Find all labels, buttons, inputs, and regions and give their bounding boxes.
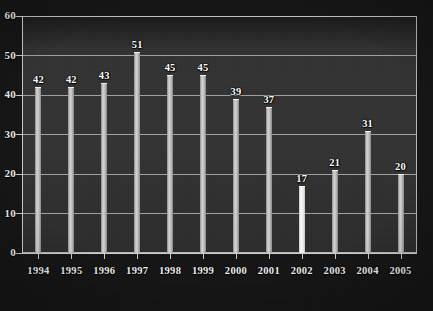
y-axis-label-60: 60 bbox=[0, 9, 16, 21]
x-axis-label-2001: 2001 bbox=[258, 265, 280, 276]
bar-value-label-1996: 43 bbox=[99, 70, 110, 81]
gridline-30 bbox=[22, 134, 417, 135]
x-axis-tick-2001 bbox=[269, 254, 270, 259]
x-axis-label-2003: 2003 bbox=[324, 265, 346, 276]
bar-1997 bbox=[134, 52, 140, 253]
x-axis-label-1998: 1998 bbox=[159, 265, 181, 276]
x-axis-label-2002: 2002 bbox=[291, 265, 313, 276]
bar-2001 bbox=[266, 107, 272, 253]
gridline-20 bbox=[22, 174, 417, 175]
bar-1995 bbox=[68, 87, 74, 253]
y-axis-label-40: 40 bbox=[0, 88, 16, 100]
gridline-60 bbox=[22, 16, 417, 17]
x-axis-tick-2005 bbox=[401, 254, 402, 259]
x-axis-line bbox=[22, 253, 417, 254]
y-axis-tick-20 bbox=[15, 174, 22, 175]
bar-2003 bbox=[332, 170, 338, 253]
y-axis-tick-30 bbox=[15, 134, 22, 135]
bar-value-label-1998: 45 bbox=[165, 62, 176, 73]
y-axis-label-10: 10 bbox=[0, 207, 16, 219]
bar-value-label-2001: 37 bbox=[263, 94, 274, 105]
bar-1999 bbox=[200, 75, 206, 253]
bar-2002 bbox=[299, 186, 305, 253]
bar-value-label-1997: 51 bbox=[132, 39, 143, 50]
bar-1994 bbox=[35, 87, 41, 253]
gridline-50 bbox=[22, 55, 417, 56]
x-axis-label-2000: 2000 bbox=[225, 265, 247, 276]
y-axis-tick-0 bbox=[15, 253, 22, 254]
bar-value-label-1999: 45 bbox=[198, 62, 209, 73]
y-axis-label-0: 0 bbox=[0, 246, 16, 258]
x-axis-tick-2000 bbox=[236, 254, 237, 259]
y-axis-tick-10 bbox=[15, 213, 22, 214]
x-axis-tick-2002 bbox=[302, 254, 303, 259]
bar-2005 bbox=[398, 174, 404, 253]
bar-value-label-1995: 42 bbox=[66, 74, 77, 85]
gridline-10 bbox=[22, 213, 417, 214]
y-axis-tick-60 bbox=[15, 16, 22, 17]
y-axis-tick-50 bbox=[15, 55, 22, 56]
x-axis-tick-1998 bbox=[170, 254, 171, 259]
x-axis-label-2004: 2004 bbox=[357, 265, 379, 276]
bar-1998 bbox=[167, 75, 173, 253]
bar-chart-figure: 0102030405060 19941995199619971998199920… bbox=[0, 0, 433, 311]
x-axis-tick-2004 bbox=[368, 254, 369, 259]
bar-value-label-1994: 42 bbox=[33, 74, 44, 85]
x-axis-label-1997: 1997 bbox=[126, 265, 148, 276]
bar-value-label-2004: 31 bbox=[362, 118, 373, 129]
y-axis-label-30: 30 bbox=[0, 128, 16, 140]
x-axis-label-1996: 1996 bbox=[93, 265, 115, 276]
x-axis-tick-1996 bbox=[104, 254, 105, 259]
x-axis-label-2005: 2005 bbox=[389, 265, 411, 276]
x-axis-tick-1994 bbox=[38, 254, 39, 259]
y-axis-line bbox=[22, 16, 23, 253]
x-axis-tick-2003 bbox=[335, 254, 336, 259]
bar-value-label-2005: 20 bbox=[395, 161, 406, 172]
bar-value-label-2002: 17 bbox=[296, 173, 307, 184]
bar-2004 bbox=[365, 131, 371, 253]
bar-2000 bbox=[233, 99, 239, 253]
x-axis-label-1994: 1994 bbox=[27, 265, 49, 276]
x-axis-tick-1997 bbox=[137, 254, 138, 259]
y-axis-label-20: 20 bbox=[0, 167, 16, 179]
x-axis-label-1999: 1999 bbox=[192, 265, 214, 276]
bar-value-label-2000: 39 bbox=[231, 86, 242, 97]
y-axis-label-50: 50 bbox=[0, 49, 16, 61]
y-axis-tick-40 bbox=[15, 95, 22, 96]
x-axis-label-1995: 1995 bbox=[60, 265, 82, 276]
bar-1996 bbox=[101, 83, 107, 253]
x-axis-tick-1999 bbox=[203, 254, 204, 259]
gridline-40 bbox=[22, 95, 417, 96]
bar-value-label-2003: 21 bbox=[329, 157, 340, 168]
x-axis-tick-1995 bbox=[71, 254, 72, 259]
